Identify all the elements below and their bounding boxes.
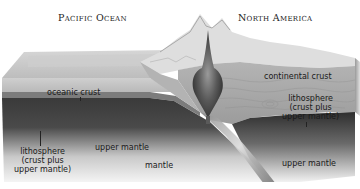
lithosphere-left-label: lithosphere (crust plus upper mantle) — [14, 147, 71, 174]
oceanic-crust-pointer — [80, 97, 81, 101]
lithosphere-left-pointer — [40, 131, 41, 146]
lithosphere-right-label: lithosphere (crust plus upper mantle) — [282, 94, 339, 121]
lithosphere-right-pointer — [306, 122, 307, 127]
upper-mantle-right-label: upper mantle — [282, 159, 336, 168]
upper-mantle-left-label: upper mantle — [95, 143, 149, 152]
pacific-ocean-title: Pacific Ocean — [58, 12, 127, 23]
mantle-label: mantle — [145, 161, 173, 170]
oceanic-crust-label: oceanic crust — [47, 88, 100, 97]
continental-crust-label: continental crust — [264, 72, 332, 81]
subduction-diagram: Pacific Ocean North America oceanic crus… — [0, 0, 360, 189]
north-america-title: North America — [238, 12, 312, 23]
